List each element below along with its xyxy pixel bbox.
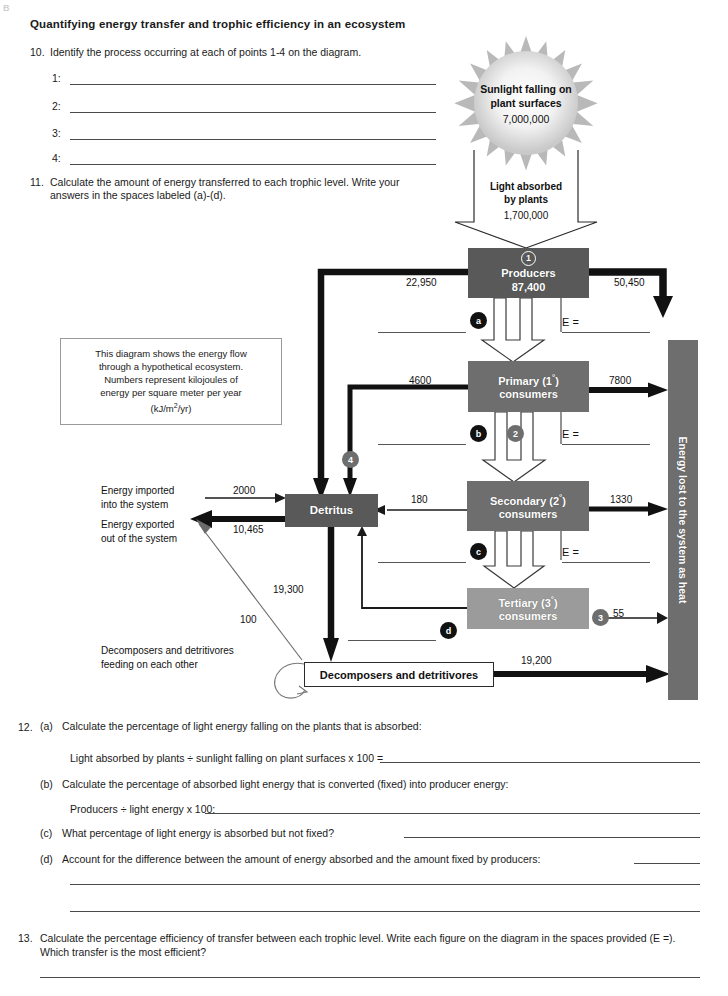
question-12-number: 12. bbox=[18, 720, 33, 734]
question-12d-answer-rule-1[interactable] bbox=[634, 863, 700, 864]
label-decomposers-feeding-line-1: Decomposers and detritivores bbox=[101, 645, 234, 656]
value-primary-to-detritus: 4600 bbox=[409, 375, 431, 386]
answer-line-d[interactable] bbox=[348, 640, 436, 641]
sun-label-group: Sunlight falling on plant surfaces 7,000… bbox=[443, 36, 609, 176]
answer-blank-4-rule[interactable] bbox=[70, 164, 436, 165]
marker-a: a bbox=[470, 312, 487, 329]
box-tertiary-name-post: ) bbox=[554, 597, 558, 609]
question-12b: (b) Calculate the percentage of absorbed… bbox=[40, 778, 509, 790]
answer-blank-3-label: 3: bbox=[52, 127, 61, 139]
hollow-arrow-secondary-to-tertiary bbox=[484, 531, 544, 588]
answer-blank-1-rule[interactable] bbox=[70, 84, 436, 85]
marker-4: 4 bbox=[342, 451, 359, 468]
question-12d: (d) Account for the difference between t… bbox=[40, 853, 540, 865]
worksheet-page: B Quantifying energy transfer and trophi… bbox=[0, 0, 728, 996]
marker-3: 3 bbox=[592, 609, 609, 626]
efficiency-line-2[interactable] bbox=[562, 444, 650, 445]
answer-line-c[interactable] bbox=[378, 562, 466, 563]
value-producers-to-detritus: 22,950 bbox=[406, 277, 437, 288]
answer-blank-1-label: 1: bbox=[52, 72, 61, 84]
box-detritus-name: Detritus bbox=[310, 504, 353, 518]
value-energy-imported: 2000 bbox=[233, 485, 255, 496]
question-13-answer-rule[interactable] bbox=[40, 977, 700, 978]
flow-primary-to-detritus bbox=[343, 387, 468, 497]
value-primary-to-heat: 7800 bbox=[609, 375, 631, 386]
box-secondary-name-line-2: consumers bbox=[499, 508, 558, 522]
efficiency-line-1[interactable] bbox=[562, 332, 650, 333]
decomposers-self-loop bbox=[275, 663, 307, 698]
flow-detritus-to-decomposers bbox=[323, 527, 339, 662]
question-13: 13. Calculate the percentage efficiency … bbox=[18, 931, 678, 959]
sun-label-line-2: plant surfaces bbox=[490, 97, 561, 109]
question-12a-formula: Light absorbed by plants ÷ sunlight fall… bbox=[70, 752, 383, 764]
box-secondary-name-line-1: Secondary (2°) bbox=[490, 491, 566, 508]
answer-line-b[interactable] bbox=[378, 444, 466, 445]
page-title: Quantifying energy transfer and trophic … bbox=[30, 18, 405, 30]
flow-producers-to-detritus bbox=[313, 272, 468, 500]
question-12c-text: What percentage of light energy is absor… bbox=[62, 827, 334, 839]
question-12a: (a) Calculate the percentage of light en… bbox=[40, 720, 422, 732]
label-energy-imported-line-2: into the system bbox=[101, 499, 168, 510]
caption-line-4: energy per square meter per year bbox=[100, 387, 242, 398]
value-decomposer-export: 100 bbox=[240, 614, 257, 625]
hollow-arrow-primary-to-secondary bbox=[483, 412, 545, 482]
question-12c-tag: (c) bbox=[40, 827, 52, 839]
answer-blank-4-label: 4: bbox=[52, 152, 61, 164]
label-energy-exported-line-1: Energy exported bbox=[101, 519, 174, 530]
question-12a-answer-rule[interactable] bbox=[380, 762, 700, 763]
question-11: 11. Calculate the amount of energy trans… bbox=[30, 176, 430, 202]
light-absorbed-label: Light absorbed by plants bbox=[466, 180, 586, 206]
question-12b-formula-group: Producers ÷ light energy x 100: bbox=[70, 803, 215, 815]
question-12b-answer-rule[interactable] bbox=[205, 813, 700, 814]
efficiency-line-3[interactable] bbox=[562, 562, 650, 563]
answer-blank-3-rule[interactable] bbox=[70, 139, 436, 140]
marker-2: 2 bbox=[507, 425, 524, 442]
question-11-number: 11. bbox=[30, 176, 44, 189]
answer-line-a[interactable] bbox=[378, 332, 466, 333]
light-absorbed-line-1: Light absorbed bbox=[490, 181, 562, 192]
box-secondary-name-post: ) bbox=[562, 494, 566, 506]
box-tertiary-name-line-1: Tertiary (3°) bbox=[498, 593, 557, 610]
label-energy-imported: Energy imported into the system bbox=[101, 484, 174, 512]
box-tertiary-consumers[interactable]: Tertiary (3°) consumers bbox=[467, 588, 589, 629]
sun-value: 7,000,000 bbox=[443, 113, 609, 125]
question-10-number: 10. bbox=[30, 46, 45, 58]
box-producers-name: Producers bbox=[501, 267, 555, 281]
box-primary-consumers[interactable]: Primary (1°) consumers bbox=[468, 361, 589, 412]
question-12c-answer-rule[interactable] bbox=[404, 837, 700, 838]
question-12c: (c) What percentage of light energy is a… bbox=[40, 827, 334, 839]
diagram-caption-box: This diagram shows the energy flow throu… bbox=[60, 338, 282, 425]
question-13-number: 13. bbox=[18, 931, 33, 945]
answer-blank-2-label: 2: bbox=[52, 100, 61, 112]
marker-b: b bbox=[470, 425, 487, 442]
question-11-text: Calculate the amount of energy transferr… bbox=[50, 176, 430, 202]
light-absorbed-value: 1,700,000 bbox=[466, 210, 586, 221]
value-tertiary-to-heat: 55 bbox=[613, 608, 624, 619]
box-primary-name-pre: Primary (1 bbox=[498, 375, 552, 387]
answer-blank-2-rule[interactable] bbox=[70, 112, 436, 113]
question-12d-tag: (d) bbox=[40, 853, 53, 865]
box-decomposers[interactable]: Decomposers and detritivores bbox=[304, 662, 494, 687]
light-absorbed-line-2: by plants bbox=[504, 194, 548, 205]
efficiency-label-1: E = bbox=[562, 316, 579, 328]
label-energy-imported-line-1: Energy imported bbox=[101, 485, 174, 496]
sun-label: Sunlight falling on plant surfaces bbox=[443, 82, 609, 110]
question-12d-answer-rule-2[interactable] bbox=[70, 884, 700, 885]
marker-c: c bbox=[470, 543, 487, 560]
box-producers[interactable]: 1 Producers 87,400 bbox=[468, 248, 589, 298]
caption-line-3: Numbers represent kilojoules of bbox=[104, 374, 238, 385]
box-secondary-consumers[interactable]: Secondary (2°) consumers bbox=[467, 481, 589, 531]
box-tertiary-name-pre: Tertiary (3 bbox=[498, 597, 550, 609]
box-detritus[interactable]: Detritus bbox=[285, 494, 378, 527]
corner-mark: B bbox=[3, 3, 10, 13]
marker-1-producers: 1 bbox=[521, 251, 536, 266]
question-12d-text: Account for the difference between the a… bbox=[62, 853, 540, 865]
value-decomposers-to-heat: 19,200 bbox=[521, 655, 552, 666]
caption-units-pre: (kJ/m bbox=[151, 404, 174, 415]
label-energy-exported: Energy exported out of the system bbox=[101, 518, 177, 546]
flow-tertiary-to-detritus bbox=[357, 526, 467, 608]
efficiency-label-2: E = bbox=[562, 428, 579, 440]
question-12d-answer-rule-3[interactable] bbox=[70, 911, 700, 912]
caption-units-post: /yr) bbox=[178, 404, 192, 415]
label-decomposers-feeding: Decomposers and detritivores feeding on … bbox=[101, 644, 234, 672]
